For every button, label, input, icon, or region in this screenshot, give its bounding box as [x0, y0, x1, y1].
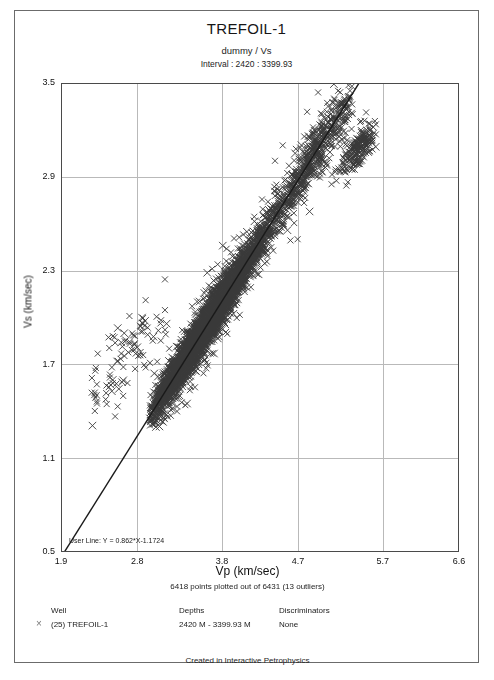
- legend-discriminators: None: [279, 620, 399, 629]
- legend-item-row[interactable]: × (25) TREFOIL-1 2420 M - 3399.93 M None: [27, 617, 467, 631]
- legend: Well Depths Discriminators × (25) TREFOI…: [27, 603, 467, 631]
- legend-header-well: Well: [51, 606, 179, 615]
- scatter-plot-canvas[interactable]: [15, 11, 480, 611]
- legend-well-name: (25) TREFOIL-1: [51, 620, 179, 629]
- legend-header-depths: Depths: [179, 606, 279, 615]
- legend-cross-marker-icon: ×: [27, 619, 51, 629]
- legend-depth-range: 2420 M - 3399.93 M: [179, 620, 279, 629]
- figure-frame: TREFOIL-1 dummy / Vs Interval : 2420 : 3…: [14, 10, 479, 663]
- y-axis-title: Vs (km/sec): [23, 247, 34, 357]
- legend-header-discriminators: Discriminators: [279, 606, 399, 615]
- crossplot-region: Vs (km/sec) Vp (km/sec) 6418 points plot…: [15, 11, 480, 664]
- x-axis-title: Vp (km/sec): [15, 564, 480, 578]
- credit-note: Created in Interactive Petrophysics: [15, 656, 480, 665]
- points-plotted-note: 6418 points plotted out of 6431 (13 outl…: [15, 582, 480, 591]
- legend-header-row: Well Depths Discriminators: [27, 603, 467, 617]
